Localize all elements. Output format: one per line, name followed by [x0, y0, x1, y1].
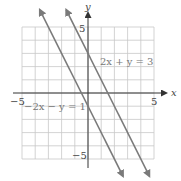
x-max-tick: 5	[151, 96, 157, 107]
x-axis-label: x	[171, 87, 177, 98]
x-min-tick: −5	[10, 96, 25, 107]
line2-label: −2x − y = 1	[24, 101, 86, 112]
chart: x y −5 5 5 −5 2x + y = 3 −2x − y = 1	[0, 0, 181, 181]
y-axis-label: y	[84, 1, 91, 12]
axes	[13, 13, 166, 168]
line1-label: 2x + y = 3	[100, 56, 154, 67]
y-max-tick: 5	[79, 23, 85, 34]
y-min-tick: −5	[72, 150, 87, 161]
